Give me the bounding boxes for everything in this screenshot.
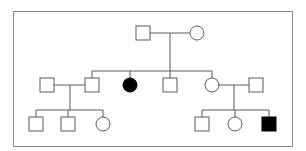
unaffected-female-symbol-i-2	[190, 26, 204, 40]
relationship-lines	[36, 33, 269, 117]
unaffected-male-symbol-ii-4	[163, 78, 177, 92]
unaffected-male-symbol-ii-1	[40, 78, 54, 92]
unaffected-male-symbol-ii-2	[85, 78, 99, 92]
unaffected-female-symbol-ii-5	[205, 78, 219, 92]
unaffected-male-symbol-i-1	[136, 26, 150, 40]
unaffected-female-symbol-iii-5	[228, 117, 242, 131]
affected-male-symbol-iii-6	[262, 117, 276, 131]
unaffected-male-symbol-iii-4	[195, 117, 209, 131]
affected-female-symbol-ii-3	[123, 78, 137, 92]
unaffected-male-symbol-iii-2	[61, 117, 75, 131]
unaffected-male-symbol-iii-1	[29, 117, 43, 131]
unaffected-female-symbol-iii-3	[96, 117, 110, 131]
unaffected-male-symbol-ii-6	[249, 78, 263, 92]
individual-symbols	[29, 26, 276, 131]
pedigree-chart	[0, 0, 306, 151]
